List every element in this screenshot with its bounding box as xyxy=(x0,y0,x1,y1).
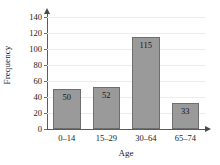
y-axis-title: Frequency xyxy=(0,0,14,130)
y-tick-label: 140 xyxy=(29,13,42,22)
x-axis-title: Age xyxy=(47,148,205,158)
y-tick-mark xyxy=(44,113,47,114)
x-axis-arrow-icon xyxy=(205,126,211,132)
y-axis-title-text: Frequency xyxy=(2,46,12,85)
bar-value-label: 115 xyxy=(133,41,159,50)
x-tick-label: 15–29 xyxy=(96,134,117,143)
x-tick-label: 30–64 xyxy=(135,134,156,143)
y-tick-label: 60 xyxy=(34,77,43,86)
x-axis-tick-labels: 0–1415–2930–6465–74 xyxy=(47,132,205,145)
gridline xyxy=(47,81,205,82)
y-axis-tick-labels: 020406080100120140 xyxy=(14,0,45,132)
x-tick-label: 65–74 xyxy=(175,134,196,143)
bar-chart: Frequency 020406080100120140 505211533 0… xyxy=(0,0,220,165)
y-tick-label: 100 xyxy=(29,45,42,54)
gridline xyxy=(47,17,205,18)
x-tick-label: 0–14 xyxy=(58,134,75,143)
gridline xyxy=(47,33,205,34)
y-tick-label: 0 xyxy=(38,125,42,134)
bar: 33 xyxy=(172,103,200,129)
y-tick-label: 120 xyxy=(29,29,42,38)
y-tick-mark xyxy=(44,81,47,82)
y-axis-arrow-icon xyxy=(44,8,50,14)
y-tick-label: 40 xyxy=(34,93,43,102)
y-tick-label: 20 xyxy=(34,109,43,118)
bar: 115 xyxy=(132,37,160,129)
y-tick-mark xyxy=(44,97,47,98)
y-tick-mark xyxy=(44,17,47,18)
gridline xyxy=(47,65,205,66)
x-axis-line xyxy=(47,129,207,130)
gridline xyxy=(47,49,205,50)
y-tick-mark xyxy=(44,65,47,66)
y-tick-mark xyxy=(44,49,47,50)
y-tick-label: 80 xyxy=(34,61,43,70)
plot-area: 505211533 xyxy=(47,17,205,129)
bar-value-label: 50 xyxy=(54,93,80,102)
bar: 50 xyxy=(53,89,81,129)
bar-value-label: 33 xyxy=(173,107,199,116)
y-tick-mark xyxy=(44,33,47,34)
bar-value-label: 52 xyxy=(94,91,120,100)
bar: 52 xyxy=(93,87,121,129)
y-tick-mark xyxy=(44,129,47,130)
